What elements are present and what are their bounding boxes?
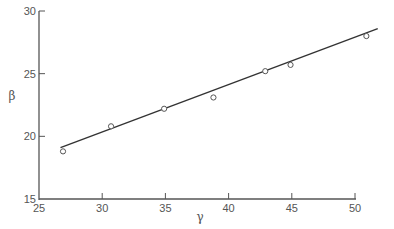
tick-marks [39,11,355,199]
x-tick-label: 40 [222,202,234,214]
axes [39,11,356,200]
data-point [263,69,268,74]
y-tick-label: 15 [24,193,36,205]
x-tick-label: 50 [349,202,361,214]
data-point [288,62,293,67]
scatter-chart: 253035404550 15202530 γ β [0,0,394,229]
data-point [162,106,167,111]
data-point [211,95,216,100]
data-point [60,149,65,154]
data-point [364,33,369,38]
y-tick-labels: 15202530 [24,5,36,205]
data-point [108,124,113,129]
data-points [60,33,369,154]
x-axis-label: γ [196,210,203,224]
y-tick-label: 25 [24,68,36,80]
y-tick-label: 20 [24,130,36,142]
x-tick-label: 30 [96,202,108,214]
x-tick-label: 45 [286,202,298,214]
y-axis-label: β [9,89,16,103]
regression-line [60,29,377,148]
y-tick-label: 30 [24,5,36,17]
fit-line [60,29,377,148]
x-tick-label: 35 [159,202,171,214]
